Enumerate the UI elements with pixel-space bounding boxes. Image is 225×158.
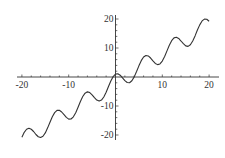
line-chart: -20-101020-20-101020	[0, 0, 225, 158]
x-tick-label: 10	[158, 80, 168, 90]
axes	[17, 15, 219, 140]
y-tick-label: -10	[101, 101, 114, 111]
x-tick-label: 20	[204, 80, 214, 90]
y-tick-label: -20	[101, 130, 114, 140]
y-tick-label: 20	[104, 14, 114, 24]
y-tick-label: 10	[104, 43, 114, 53]
x-tick-label: -10	[62, 80, 75, 90]
x-tick-label: -20	[16, 80, 29, 90]
